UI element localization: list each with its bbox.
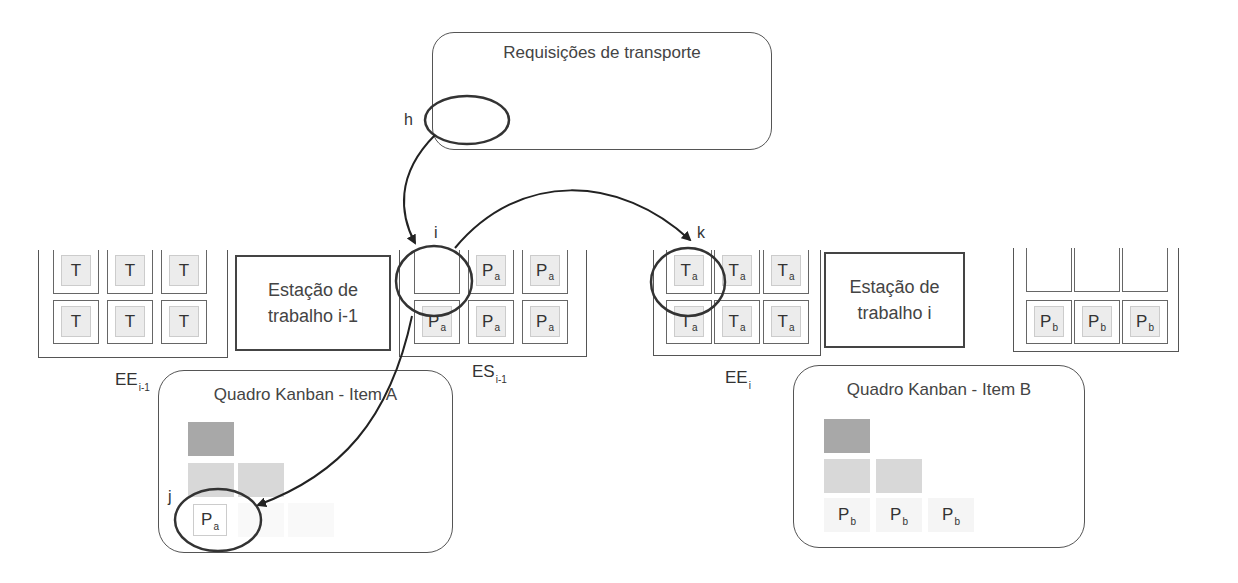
- ellipse-k: [651, 248, 725, 316]
- ellipse-i: [396, 246, 472, 316]
- flow-overlay: [0, 0, 1238, 583]
- ellipse-h: [425, 96, 509, 144]
- arrow-i-to-j: [258, 316, 412, 505]
- arrow-i-to-k: [455, 190, 690, 248]
- ellipse-j: [175, 489, 261, 551]
- arrow-h-to-i: [404, 135, 435, 243]
